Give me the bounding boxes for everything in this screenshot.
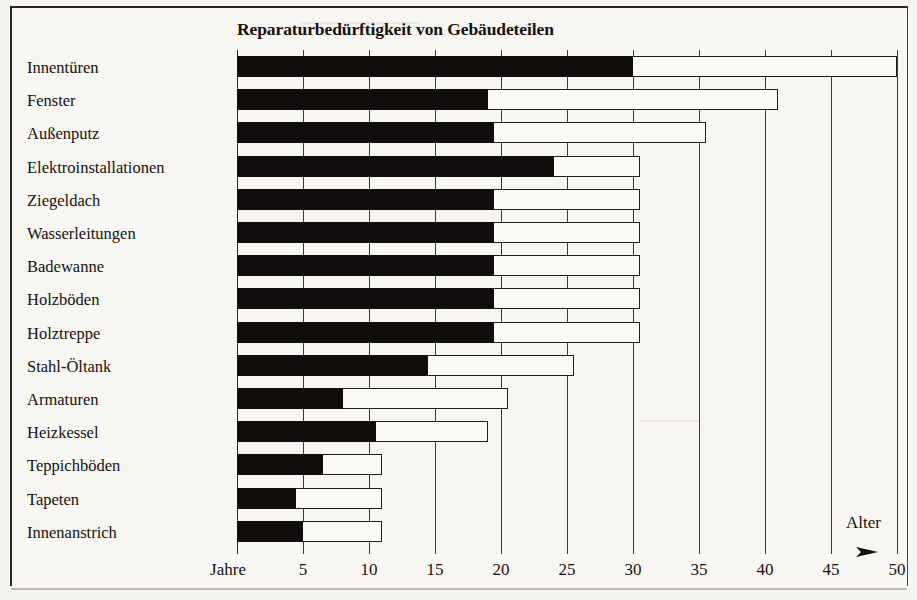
x-tick-label: 40 [757,560,774,580]
bar-row[interactable] [237,122,706,143]
bar-segment-minimum [237,355,428,376]
bar-row[interactable] [237,355,574,376]
x-tick-label: 15 [427,560,444,580]
category-label: Tapeten [27,492,79,509]
category-label: Heizkessel [27,425,98,442]
bar-row[interactable] [237,255,640,276]
bar-row[interactable] [237,322,640,343]
category-label: Elektroinstallationen [27,160,164,177]
bar-row[interactable] [237,388,508,409]
x-tick-label: 35 [691,560,708,580]
gridline-40 [765,50,766,554]
bar-segment-minimum [237,156,554,177]
bar-segment-minimum [237,521,303,542]
category-label: Badewanne [27,259,104,276]
bar-row[interactable] [237,454,382,475]
x-tick-label: 25 [559,560,576,580]
bar-segment-minimum [237,488,296,509]
category-label: Stahl-Öltank [27,359,111,376]
category-label: Teppichböden [27,458,120,475]
axis-arrow-icon [838,546,898,558]
bar-row[interactable] [237,421,488,442]
category-label: Außenputz [27,126,99,143]
category-label: Ziegeldach [27,193,100,210]
bar-segment-minimum [237,122,494,143]
bar-row[interactable] [237,56,897,77]
plot-area [237,50,897,554]
bar-row[interactable] [237,222,640,243]
bar-row[interactable] [237,288,640,309]
gridline-50 [897,50,898,554]
bar-segment-minimum [237,56,633,77]
bar-segment-minimum [237,421,376,442]
bar-segment-minimum [237,454,323,475]
bar-segment-minimum [237,322,494,343]
category-label: Holztreppe [27,326,100,343]
bar-segment-minimum [237,189,494,210]
category-label: Innenanstrich [27,525,117,542]
figure-page: Reparaturbedürftigkeit von Gebäudeteilen… [0,0,917,600]
bar-segment-minimum [237,222,494,243]
x-axis-unit-label: Jahre [210,560,246,580]
x-tick-label: 5 [299,560,308,580]
chart-title: Reparaturbedürftigkeit von Gebäudeteilen [237,19,837,40]
category-label: Wasserleitungen [27,226,136,243]
bar-segment-minimum [237,255,494,276]
gridline-45 [831,50,832,554]
category-label: Fenster [27,93,76,110]
bar-row[interactable] [237,189,640,210]
bar-row[interactable] [237,488,382,509]
x-tick-label: 50 [889,560,906,580]
x-tick-label: 20 [493,560,510,580]
x-tick-label: 30 [625,560,642,580]
bar-segment-minimum [237,388,343,409]
category-label: Innentüren [27,60,98,77]
category-label: Holzböden [27,292,99,309]
x-tick-label: 10 [361,560,378,580]
x-axis-title: Alter [846,513,881,533]
bar-row[interactable] [237,89,778,110]
x-tick-label: 45 [823,560,840,580]
category-label: Armaturen [27,392,98,409]
bar-segment-minimum [237,89,488,110]
bar-row[interactable] [237,521,382,542]
bar-segment-minimum [237,288,494,309]
bar-row[interactable] [237,156,640,177]
